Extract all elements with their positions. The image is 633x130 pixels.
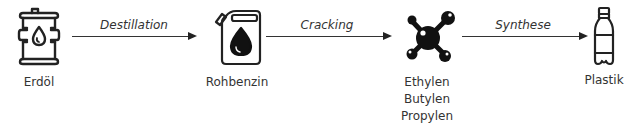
oil-barrel-icon <box>15 6 63 66</box>
arrow-synthese <box>462 36 581 37</box>
node-label-erdoel: Erdöl <box>24 74 55 91</box>
node-label-butylen: Butylen <box>404 91 450 108</box>
edge-label-destillation: Destillation <box>100 18 168 32</box>
jerrycan-icon <box>212 8 262 66</box>
node-label-rohbenzin: Rohbenzin <box>206 74 269 91</box>
node-label-propylen: Propylen <box>401 108 453 125</box>
edge-label-cracking: Cracking <box>301 18 354 32</box>
arrowhead-icon <box>383 32 392 40</box>
molecule-icon <box>403 8 459 64</box>
node-label-ethylen: Ethylen <box>404 74 449 91</box>
plastic-bottle-icon <box>593 6 615 68</box>
edge-label-synthese: Synthese <box>495 18 551 32</box>
arrow-destillation <box>72 36 190 37</box>
node-label-plastik: Plastik <box>584 72 623 89</box>
arrowhead-icon <box>188 32 197 40</box>
arrowhead-icon <box>579 32 588 40</box>
arrow-cracking <box>266 36 385 37</box>
